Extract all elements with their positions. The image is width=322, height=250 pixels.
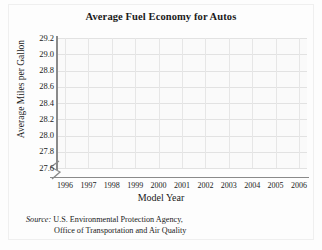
y-axis-line <box>56 36 58 170</box>
y-axis-tick-label: 27.6 <box>28 164 54 173</box>
gridline-vertical <box>88 38 89 168</box>
source-note: Source: U.S. Environmental Protection Ag… <box>26 214 306 236</box>
gridline-vertical <box>65 38 66 168</box>
y-axis-tick-label: 28.6 <box>28 82 54 91</box>
source-line-1: U.S. Environmental Protection Agency, <box>53 215 183 224</box>
gridline-vertical <box>182 38 183 168</box>
x-axis-tick-label: 2006 <box>284 181 314 190</box>
source-line-2: Office of Transportation and Air Quality <box>26 225 306 236</box>
source-label: Source: <box>26 215 51 224</box>
y-axis-tick-label: 29.0 <box>28 50 54 59</box>
y-axis-tick-label: 28.2 <box>28 115 54 124</box>
gridline-vertical <box>229 38 230 168</box>
gridline-horizontal <box>57 168 307 169</box>
y-axis-tick-label: 28.4 <box>28 99 54 108</box>
y-axis-tick-label: 27.8 <box>28 147 54 156</box>
y-axis-tick-label: 28.0 <box>28 131 54 140</box>
y-axis-tick-labels: 29.229.028.828.628.428.228.027.827.6 <box>24 0 54 250</box>
y-axis-title: Average Miles per Gallon <box>16 24 26 154</box>
gridline-vertical <box>205 38 206 168</box>
gridline-vertical <box>112 38 113 168</box>
x-axis-title: Model Year <box>0 192 322 203</box>
y-axis-tick-label: 29.2 <box>28 34 54 43</box>
x-axis-line <box>50 177 309 178</box>
plot-area: 1996: 28.31997: 28.41998: 28.51999: 28.2… <box>57 38 307 168</box>
gridline-vertical <box>159 38 160 168</box>
chart-figure: Average Fuel Economy for Autos 1996: 28.… <box>0 0 322 250</box>
y-axis-tick-label: 28.8 <box>28 66 54 75</box>
gridline-vertical <box>252 38 253 168</box>
gridline-vertical <box>299 38 300 168</box>
gridline-vertical <box>276 38 277 168</box>
gridline-vertical <box>135 38 136 168</box>
